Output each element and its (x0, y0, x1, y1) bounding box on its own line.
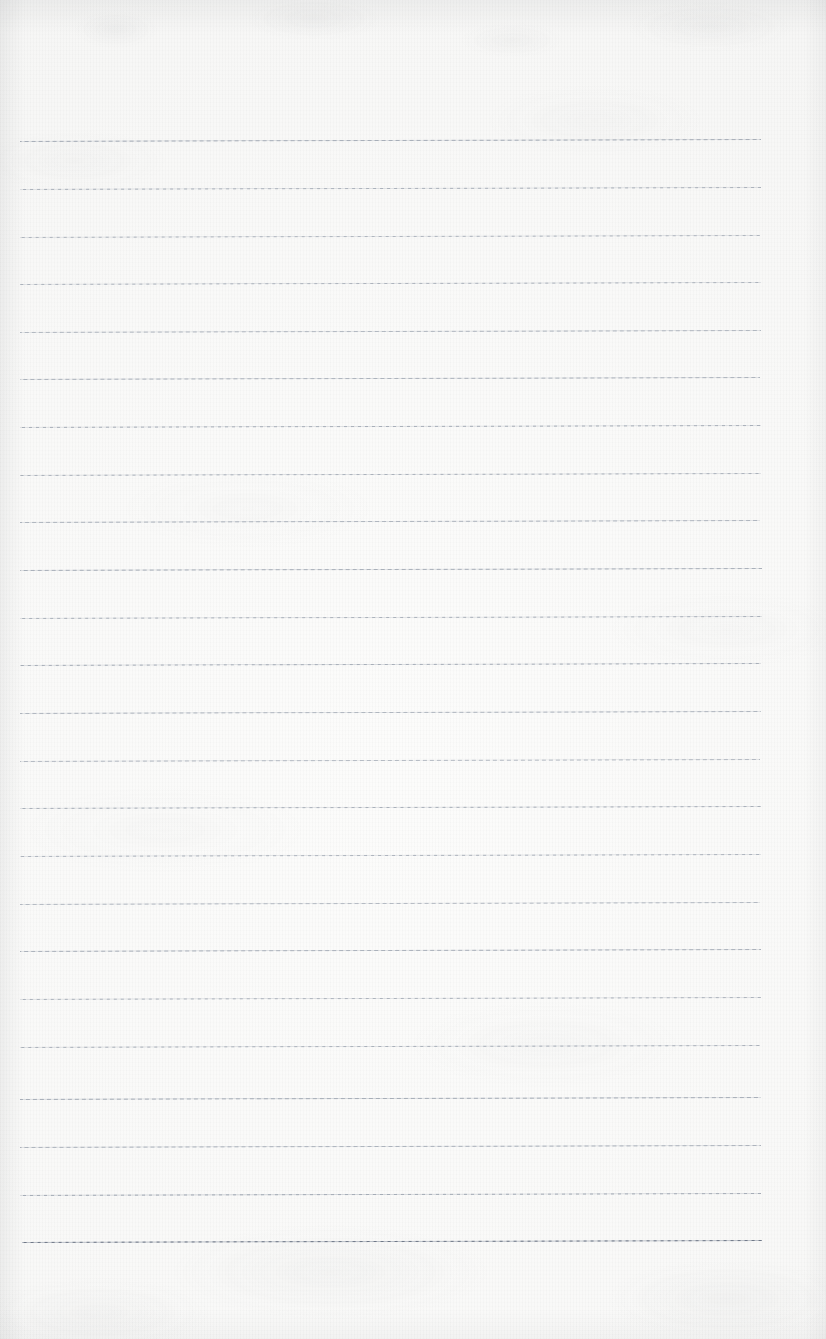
scanned-page (0, 0, 826, 1339)
writing-area[interactable] (20, 120, 762, 1260)
